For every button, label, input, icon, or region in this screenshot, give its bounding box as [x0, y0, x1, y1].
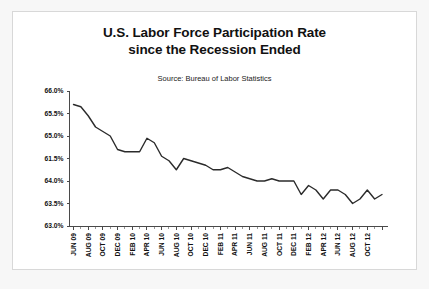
- x-axis-tick-label: AUG 12: [349, 233, 356, 257]
- x-axis-tick-label: JUN 12: [334, 233, 341, 256]
- x-axis-labels: JUN 09AUG 09OCT 09DEC 09FEB 10APR 10JUN …: [70, 233, 371, 257]
- x-axis-tick-label: APR 12: [320, 233, 327, 257]
- x-axis-tick-label: FEB 12: [305, 233, 312, 256]
- x-axis-ticks: [74, 226, 383, 230]
- line-chart-svg: 66.0%65.5%65.0%61.5%64.0%63.5%63.0% JUN …: [13, 12, 418, 271]
- plot-area: 66.0%65.5%65.0%61.5%64.0%63.5%63.0% JUN …: [13, 12, 418, 271]
- x-axis-tick-label: FEB 11: [217, 233, 224, 256]
- y-axis-labels: 66.0%65.5%65.0%61.5%64.0%63.5%63.0%: [45, 87, 64, 229]
- y-axis-tick-label: 65.5%: [45, 110, 64, 117]
- y-axis-tick-label: 66.0%: [45, 87, 64, 94]
- x-axis-tick-label: AUG 09: [85, 233, 92, 257]
- x-axis-tick-label: OCT 09: [99, 233, 106, 257]
- x-axis-tick-label: APR 11: [231, 233, 238, 256]
- data-series-line: [74, 105, 383, 204]
- y-axis-tick-label: 63.0%: [45, 222, 64, 229]
- x-axis-tick-label: OCT 12: [364, 233, 371, 257]
- x-axis-tick-label: JUN 09: [70, 233, 77, 256]
- x-axis-tick-label: AUG 10: [173, 233, 180, 257]
- x-axis-tick-label: APR 10: [143, 233, 150, 257]
- y-axis-tick-label: 63.5%: [45, 200, 64, 207]
- y-axis-tick-label: 65.0%: [45, 132, 64, 139]
- y-axis-tick-label: 61.5%: [45, 155, 64, 162]
- x-axis-tick-label: JUN 10: [158, 233, 165, 256]
- y-axis-tick-label: 64.0%: [45, 177, 64, 184]
- x-axis-tick-label: OCT 11: [276, 233, 283, 256]
- x-axis-tick-label: FEB 10: [129, 233, 136, 256]
- chart-container: U.S. Labor Force Participation Rate sinc…: [12, 11, 417, 270]
- x-axis-tick-label: OCT 10: [187, 233, 194, 257]
- x-axis-tick-label: DEC 11: [290, 233, 297, 256]
- x-axis-tick-label: DEC 10: [202, 233, 209, 257]
- x-axis-tick-label: DEC 09: [114, 233, 121, 257]
- x-axis-tick-label: AUG 11: [261, 233, 268, 257]
- x-axis-tick-label: JUN 11: [246, 233, 253, 256]
